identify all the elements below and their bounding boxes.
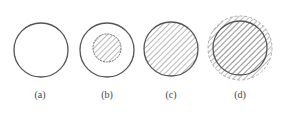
hatched-core	[93, 34, 121, 62]
hatched-inner-circle	[213, 21, 267, 75]
empty-circle	[14, 23, 68, 77]
label-b: (b)	[101, 89, 113, 100]
hatched-circle	[144, 22, 198, 76]
figure-c	[144, 22, 198, 76]
figure-d	[208, 16, 272, 80]
label-c: (c)	[165, 89, 176, 100]
label-a: (a)	[34, 89, 45, 100]
label-d: (d)	[234, 89, 246, 100]
figure-a	[14, 23, 68, 77]
figure-b	[80, 23, 134, 77]
